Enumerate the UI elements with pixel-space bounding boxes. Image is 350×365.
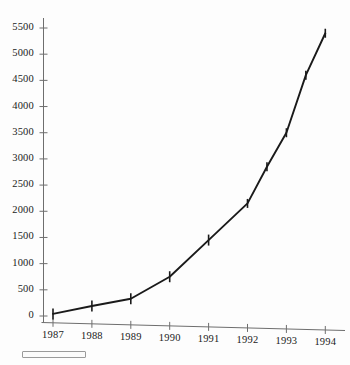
y-axis-tick-label: 500 bbox=[0, 283, 34, 294]
y-axis-tick-label: 2500 bbox=[0, 178, 34, 189]
x-axis-tick-label: 1988 bbox=[72, 330, 112, 341]
y-axis-tick-label: 3500 bbox=[0, 126, 34, 137]
y-axis-tick-label: 5000 bbox=[0, 47, 34, 58]
chart-axes bbox=[40, 18, 346, 334]
y-axis-tick-label: 1000 bbox=[0, 257, 34, 268]
y-axis-tick-label: 4000 bbox=[0, 100, 34, 111]
y-axis-tick-label: 0 bbox=[0, 309, 34, 320]
x-axis-tick-label: 1991 bbox=[189, 333, 229, 344]
x-axis-tick-label: 1993 bbox=[266, 335, 306, 346]
x-axis-tick-label: 1987 bbox=[33, 329, 73, 340]
y-axis-tick-label: 1500 bbox=[0, 230, 34, 241]
chart-plot-area bbox=[0, 0, 350, 365]
y-axis-tick-label: 5500 bbox=[0, 21, 34, 32]
x-axis-tick-label: 1992 bbox=[228, 334, 268, 345]
chart-data-markers bbox=[53, 29, 325, 320]
y-axis-tick-label: 3000 bbox=[0, 152, 34, 163]
y-axis-tick-label: 2000 bbox=[0, 204, 34, 215]
y-axis-tick-label: 4500 bbox=[0, 73, 34, 84]
x-axis-tick-label: 1989 bbox=[111, 331, 151, 342]
scale-bar bbox=[22, 351, 86, 358]
chart-series-line bbox=[53, 33, 325, 314]
chart-figure: 0500100015002000250030003500400045005000… bbox=[0, 0, 350, 365]
x-axis-tick-label: 1990 bbox=[150, 332, 190, 343]
x-axis-tick-label: 1994 bbox=[305, 336, 345, 347]
